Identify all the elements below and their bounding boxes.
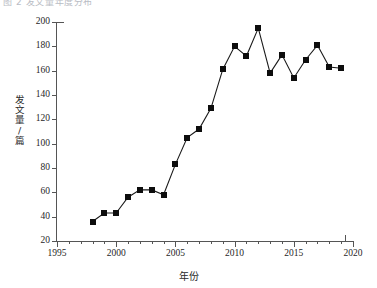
data-point-marker	[172, 161, 178, 167]
x-axis-tick	[116, 241, 117, 247]
y-axis-tick-label: 20	[41, 236, 51, 246]
x-axis-minor-tick	[69, 241, 70, 244]
x-axis-minor-tick	[270, 241, 271, 244]
data-point-marker	[149, 187, 155, 193]
x-axis-minor-tick	[306, 241, 307, 244]
y-axis-tick	[52, 144, 57, 145]
y-axis-tick	[52, 46, 57, 47]
y-axis-tick-label: 160	[36, 66, 50, 76]
plot-area: 2040608010012014016018020019952000200520…	[56, 22, 353, 242]
x-axis-minor-tick	[187, 241, 188, 244]
data-point-marker	[161, 192, 167, 198]
data-point-marker	[267, 70, 273, 76]
x-axis-minor-tick	[329, 241, 330, 244]
data-point-marker	[291, 75, 297, 81]
data-point-marker	[184, 135, 190, 141]
data-point-marker	[326, 64, 332, 70]
y-axis-tick	[52, 22, 57, 23]
y-axis-tick-label: 40	[41, 212, 51, 222]
x-axis-minor-tick	[282, 241, 283, 244]
y-axis-tick-label: 80	[41, 163, 51, 173]
data-point-marker	[243, 53, 249, 59]
data-point-marker	[101, 210, 107, 216]
x-axis-minor-tick	[211, 241, 212, 244]
x-axis-minor-tick	[199, 241, 200, 244]
y-axis-tick	[52, 119, 57, 120]
x-axis-minor-tick	[317, 241, 318, 244]
x-axis-minor-tick	[246, 241, 247, 244]
x-axis-minor-tick	[152, 241, 153, 244]
y-axis-tick	[52, 168, 57, 169]
data-point-marker	[255, 25, 261, 31]
data-point-marker	[220, 66, 226, 72]
y-axis-tick-label: 120	[36, 115, 50, 125]
x-axis-tick-label: 2010	[225, 249, 244, 259]
x-axis-minor-tick	[104, 241, 105, 244]
y-axis-title: 发文量/篇	[12, 95, 26, 146]
x-axis-tick	[57, 241, 58, 247]
x-axis-minor-tick	[341, 241, 342, 244]
y-axis-tick-label: 140	[36, 90, 50, 100]
data-point-marker	[232, 43, 238, 49]
data-point-marker	[338, 65, 344, 71]
x-axis-minor-tick	[81, 241, 82, 244]
publication-count-line-chart: 发文量/篇 2040608010012014016018020019952000…	[0, 0, 377, 288]
x-axis-tick-label: 2020	[344, 249, 363, 259]
x-axis-right-stub	[345, 235, 346, 242]
y-axis-tick-label: 100	[36, 139, 50, 149]
x-axis-tick-label: 2015	[284, 249, 303, 259]
x-axis-minor-tick	[223, 241, 224, 244]
y-axis-tick-label: 180	[36, 42, 50, 52]
y-axis-tick	[52, 192, 57, 193]
x-axis-tick-label: 2005	[166, 249, 185, 259]
data-point-marker	[125, 194, 131, 200]
x-axis-minor-tick	[128, 241, 129, 244]
series-line	[57, 22, 353, 241]
data-point-marker	[279, 52, 285, 58]
y-axis-tick	[52, 95, 57, 96]
x-axis-tick	[175, 241, 176, 247]
y-axis-tick	[52, 217, 57, 218]
x-axis-tick-label: 1995	[48, 249, 67, 259]
data-point-marker	[90, 219, 96, 225]
x-axis-tick	[353, 241, 354, 247]
data-point-marker	[196, 126, 202, 132]
data-point-marker	[303, 57, 309, 63]
x-axis-minor-tick	[164, 241, 165, 244]
x-axis-minor-tick	[93, 241, 94, 244]
data-point-marker	[208, 105, 214, 111]
x-axis-title: 年份	[0, 268, 377, 283]
y-axis-tick-label: 60	[41, 188, 51, 198]
x-axis-tick-label: 2000	[107, 249, 126, 259]
y-axis-tick-label: 200	[36, 17, 50, 27]
x-axis-tick	[294, 241, 295, 247]
data-point-marker	[113, 210, 119, 216]
x-axis-minor-tick	[140, 241, 141, 244]
x-axis-tick	[235, 241, 236, 247]
data-point-marker	[137, 187, 143, 193]
x-axis-minor-tick	[258, 241, 259, 244]
y-axis-tick	[52, 71, 57, 72]
data-point-marker	[314, 42, 320, 48]
